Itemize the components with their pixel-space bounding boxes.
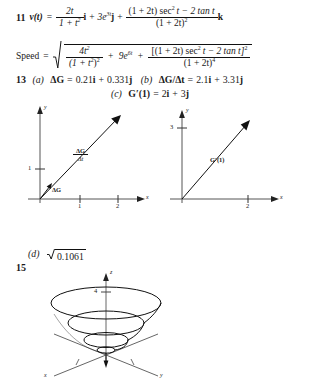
eq11-equals: = (47, 12, 52, 22)
left-graph-x-tick-1: 1 (78, 202, 81, 209)
part-label-b: (b) (141, 74, 152, 85)
part-label-a: (a) (32, 74, 43, 85)
spiral-y-axis-label: y (160, 372, 163, 378)
speed-term2: 9e6t (119, 51, 133, 61)
ratio-denominator: Δt (73, 154, 88, 162)
answer-key-page: 11 v(t) = 2t 1 + t2 i + 3e3t j + (1 + 2t… (0, 0, 314, 380)
eq11-term1-numerator: 2t (56, 6, 84, 17)
eq11-term2-unit-j: j (111, 12, 114, 22)
part-d-radical: 0.1061 (47, 248, 86, 262)
eq11-plus-1: + (89, 12, 94, 22)
left-graph-x-axis-label: x (146, 194, 149, 200)
eq11-term3-fraction: (1 + 2t) sec2t − 2 tan t (1 + 2t)2 (126, 6, 218, 28)
speed-term3-fraction: [(1 + 2t) sec2t − 2 tan t]2 (1 + 2t)4 (148, 46, 250, 68)
left-graph-delta-G-over-delta-t-label: ΔG Δt (73, 147, 88, 163)
left-graph-x-tick-2: 2 (116, 202, 119, 209)
left-graph-delta-G-label: ΔG (52, 186, 61, 193)
problem-number-11: 11 (16, 12, 25, 23)
equation-11-velocity: 11 v(t) = 2t 1 + t2 i + 3e3t j + (1 + 2t… (16, 6, 308, 28)
speed-term3-denominator: (1 + 2t)4 (148, 57, 250, 69)
right-graph-x-axis-label: x (280, 194, 283, 200)
part-d-radicand: 0.1061 (55, 249, 86, 262)
right-graph-y-axis-label: y (186, 107, 189, 113)
spiral-z-tick-4: 4 (94, 287, 97, 294)
part-c-expression: G′(1)=2i+3j (128, 88, 189, 99)
equation-13-parts-ab: 13 (a) ΔG=0.21i+0.331j (b) ΔG/Δt=2.1i+3.… (16, 74, 308, 85)
figure-conical-spiral-3d: z 4 x y (30, 268, 210, 380)
speed-term1-numerator: 4t2 (66, 46, 103, 57)
eq11-term1-denominator: 1 + t2 (56, 17, 84, 29)
part-b-expression: ΔG/Δt=2.1i+3.31j (159, 74, 243, 85)
speed-plus-1: + (108, 51, 113, 61)
speed-term1-denominator: (1 + t2)2 (66, 57, 103, 69)
eq11-plus-2: + (117, 12, 122, 22)
part-a-expression: ΔG=0.21i+0.331j (50, 74, 132, 85)
left-graph-y-axis-label: y (44, 104, 47, 110)
left-graph-y-tick-1: 1 (28, 164, 31, 171)
problem-number-13: 13 (16, 74, 26, 85)
eq11-lhs: v(t) (29, 12, 42, 22)
right-graph-G-prime: y x 3 2 G′(1) (160, 103, 298, 215)
speed-equals: = (43, 51, 48, 61)
speed-term1-fraction: 4t2 (1 + t2)2 (66, 46, 103, 68)
eq11-term2: 3e3t (98, 12, 112, 22)
part-label-c: (c) (111, 88, 122, 99)
equation-13-part-d: (d) 0.1061 (28, 248, 86, 262)
radical-sign-icon (53, 40, 62, 72)
eq11-term1-unit-i: i (84, 12, 87, 22)
eq11-term1-fraction: 2t 1 + t2 (56, 6, 84, 28)
problem-number-15: 15 (16, 262, 26, 273)
speed-radicand: 4t2 (1 + t2)2 + 9e6t + [(1 + 2t) sec2t −… (64, 44, 252, 68)
speed-plus-2: + (138, 51, 143, 61)
right-graph-x-tick-2: 2 (246, 202, 249, 209)
spiral-x-axis-label: x (44, 372, 47, 378)
eq11-term3-unit-k: k (218, 12, 223, 22)
eq11-term3-numerator: (1 + 2t) sec2t − 2 tan t (126, 6, 218, 17)
right-graph-G-prime-label: G′(1) (210, 156, 224, 163)
equation-13-part-c: (c) G′(1)=2i+3j (16, 88, 284, 99)
speed-lhs: Speed (16, 51, 39, 61)
part-label-d: (d) (28, 248, 39, 259)
eq11-term3-denominator: (1 + 2t)2 (126, 17, 218, 29)
equation-11-speed: Speed = 4t2 (1 + t2)2 + 9e6t + (16, 40, 308, 72)
speed-radical: 4t2 (1 + t2)2 + 9e6t + [(1 + 2t) sec2t −… (53, 40, 253, 72)
radical-sign-icon (47, 248, 55, 262)
spiral-z-axis-label: z (110, 269, 112, 275)
ratio-numerator: ΔG (73, 147, 88, 154)
left-graph-delta-G: y x 1 1 2 ΔG ΔG Δt (18, 103, 156, 215)
speed-term3-numerator: [(1 + 2t) sec2t − 2 tan t]2 (148, 46, 250, 57)
right-graph-y-tick-3: 3 (170, 123, 173, 130)
